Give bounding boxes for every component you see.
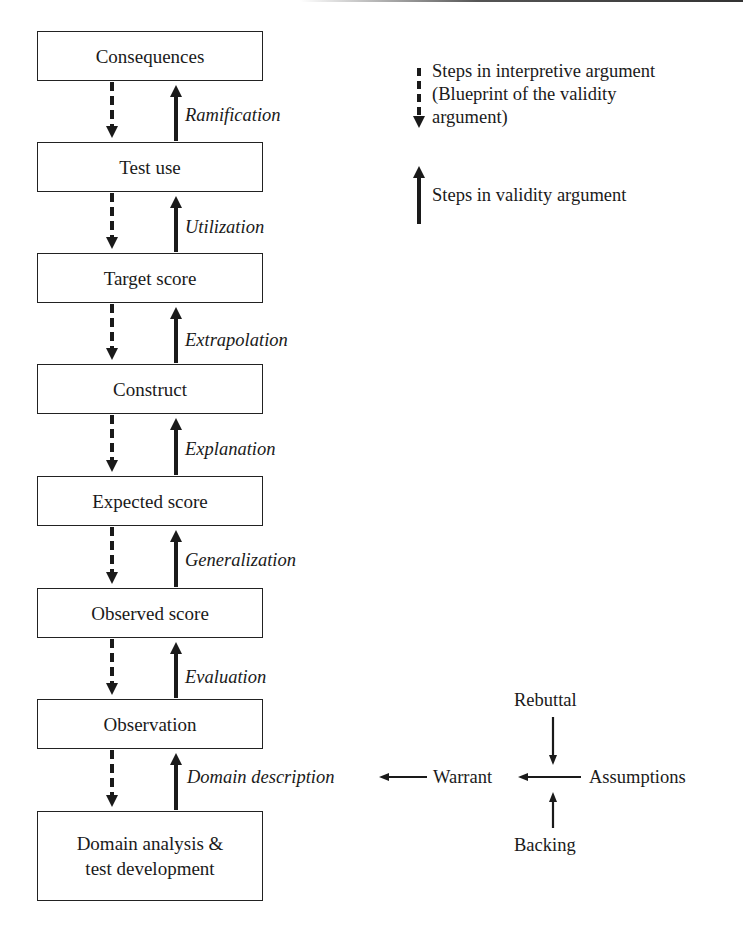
legend-dashed-line-1: Steps in interpretive argument — [432, 60, 655, 82]
box-label: Observed score — [91, 601, 209, 626]
inference-generalization: Generalization — [185, 549, 296, 571]
box-test-use: Test use — [37, 142, 263, 192]
legend-dashed-line-2: (Blueprint of the validity — [432, 83, 616, 105]
box-expected-score: Expected score — [37, 476, 263, 526]
box-target-score: Target score — [37, 253, 263, 303]
arrows-layer — [0, 0, 743, 929]
box-label-line-1: Domain analysis & — [77, 831, 224, 856]
box-consequences: Consequences — [37, 31, 263, 81]
box-label: Construct — [113, 377, 187, 402]
inference-utilization: Utilization — [185, 216, 264, 238]
box-label: Consequences — [96, 44, 205, 69]
rebuttal-label: Rebuttal — [514, 689, 577, 711]
box-observed-score: Observed score — [37, 588, 263, 638]
box-label: Observation — [104, 712, 197, 737]
inference-domain-description: Domain description — [187, 766, 334, 788]
box-domain-analysis: Domain analysis & test development — [37, 811, 263, 901]
warrant-label: Warrant — [433, 766, 492, 788]
inference-extrapolation: Extrapolation — [185, 329, 288, 351]
assumptions-label: Assumptions — [589, 766, 686, 788]
box-construct: Construct — [37, 364, 263, 414]
legend-solid-label: Steps in validity argument — [432, 184, 626, 206]
legend-dashed-line-3: argument) — [432, 106, 508, 128]
inference-evaluation: Evaluation — [185, 666, 266, 688]
box-observation: Observation — [37, 699, 263, 749]
box-label: Expected score — [92, 489, 208, 514]
backing-label: Backing — [514, 834, 576, 856]
inference-explanation: Explanation — [185, 438, 275, 460]
box-label: Test use — [119, 155, 180, 180]
box-label: Target score — [104, 266, 197, 291]
inference-ramification: Ramification — [185, 104, 281, 126]
box-label-line-2: test development — [85, 856, 214, 881]
